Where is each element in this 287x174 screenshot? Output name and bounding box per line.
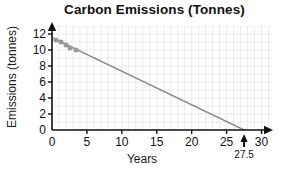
y-tick-label: 8 — [39, 59, 46, 73]
y-tick-label: 6 — [39, 75, 46, 89]
x-tick-label: 30 — [255, 135, 268, 149]
y-tick-label: 4 — [39, 91, 46, 105]
y-tick-label: 10 — [33, 43, 46, 57]
x-tick-label: 25 — [220, 135, 233, 149]
x-tick-label: 15 — [150, 135, 163, 149]
y-tick-label: 0 — [39, 123, 46, 137]
x-tick-label: 10 — [115, 135, 128, 149]
x-tick-label: 20 — [185, 135, 198, 149]
y-tick-label: 12 — [33, 27, 46, 41]
x-tick-label: 0 — [49, 135, 56, 149]
x-intercept-label: 27.5 — [234, 149, 253, 160]
x-tick-label: 5 — [84, 135, 91, 149]
chart-container: Carbon Emissions (Tonnes) Emissions (ton… — [0, 0, 287, 174]
y-tick-label: 2 — [39, 107, 46, 121]
